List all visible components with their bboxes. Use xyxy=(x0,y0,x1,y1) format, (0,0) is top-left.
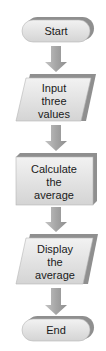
start-node-label: Start xyxy=(44,25,67,37)
input-node-label-line-3: values xyxy=(38,108,70,120)
calculate-node-label-line-1: Calculate xyxy=(31,163,77,175)
calculate-node-label-line-2: the xyxy=(46,176,61,188)
display-node-label-line-2: the xyxy=(47,256,62,268)
input-node-label-line-1: Input xyxy=(42,82,66,94)
input-node-label-line-2: three xyxy=(41,95,66,107)
input-node: Input three values xyxy=(16,74,96,121)
display-node: Display the average xyxy=(16,234,98,284)
arrow-calculate-to-display xyxy=(45,207,67,232)
display-node-label-line-3: average xyxy=(35,269,75,281)
flowchart: Start Input three values Calculate the a… xyxy=(0,0,106,351)
calculate-node: Calculate the average xyxy=(16,153,97,205)
arrow-start-to-input xyxy=(45,46,67,72)
display-node-label-line-1: Display xyxy=(37,243,74,255)
arrow-input-to-calculate xyxy=(45,125,67,151)
end-node: End xyxy=(22,316,94,341)
end-node-label: End xyxy=(46,324,66,336)
arrow-display-to-end xyxy=(45,288,67,315)
start-node: Start xyxy=(22,17,94,42)
calculate-node-label-line-3: average xyxy=(34,189,74,201)
